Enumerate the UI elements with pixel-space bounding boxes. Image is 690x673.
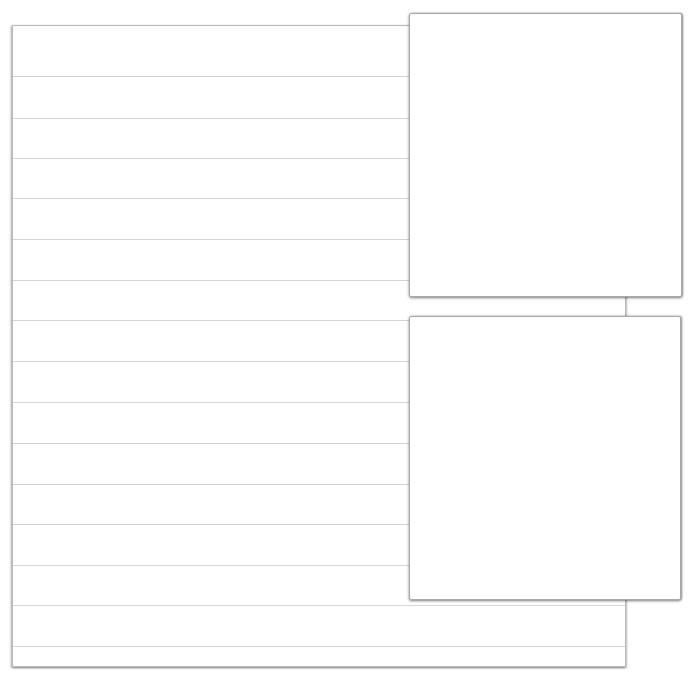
bottom-card[interactable] (409, 316, 681, 600)
ruled-line (13, 605, 625, 606)
top-card[interactable] (409, 13, 682, 297)
clipped-header-text (0, 0, 690, 6)
ruled-line (13, 646, 625, 647)
